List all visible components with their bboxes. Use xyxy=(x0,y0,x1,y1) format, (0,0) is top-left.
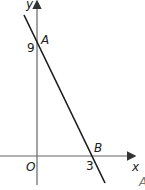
point-b-label: B xyxy=(94,142,102,154)
point-a-label: A xyxy=(41,34,49,46)
x-axis-label: x xyxy=(132,161,139,173)
origin-label: O xyxy=(26,161,35,173)
graph-canvas xyxy=(0,0,145,190)
y-intercept-tick-label: 9 xyxy=(27,42,35,54)
edge-fragment-label: A xyxy=(139,176,145,188)
y-axis-label: y xyxy=(26,0,33,10)
x-intercept-tick-label: 3 xyxy=(86,160,94,172)
graph-line xyxy=(24,15,105,183)
